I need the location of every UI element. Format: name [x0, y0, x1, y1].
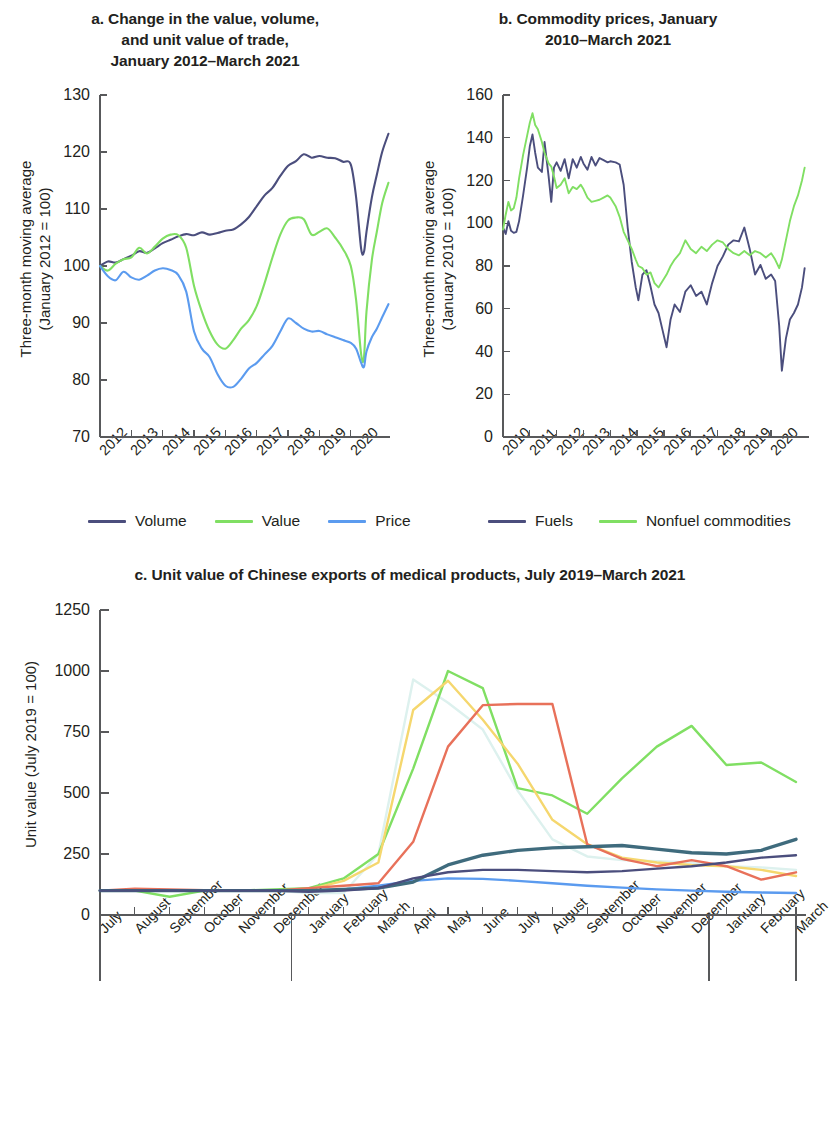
panel-a-plot-area [0, 0, 403, 480]
legend-item[interactable]: Nonfuel commodities [599, 512, 791, 530]
panel-c: c. Unit value of Chinese exports of medi… [0, 550, 806, 1142]
legend-label: Nonfuel commodities [646, 512, 791, 530]
legend-item[interactable]: Value [215, 512, 301, 530]
series-line-nonfuel-commodities [503, 113, 805, 287]
panel-b: b. Commodity prices, January 2010–March … [403, 0, 806, 550]
series-line-volume [100, 134, 388, 266]
legend-label: Value [262, 512, 301, 530]
panel-a-legend: VolumeValuePrice [88, 512, 411, 530]
legend-item[interactable]: Fuels [488, 512, 573, 530]
legend-item[interactable]: Volume [88, 512, 187, 530]
legend-item[interactable]: Price [328, 512, 410, 530]
legend-color-swatch [88, 520, 126, 523]
panel-c-plot-area [0, 550, 806, 1050]
legend-color-swatch [215, 520, 253, 523]
legend-color-swatch [328, 520, 366, 523]
legend-label: Fuels [535, 512, 573, 530]
legend-label: Volume [135, 512, 187, 530]
panel-a: a. Change in the value, volume, and unit… [0, 0, 403, 550]
panel-b-plot-area [403, 0, 806, 480]
series-line-value [100, 183, 388, 362]
legend-color-swatch [488, 520, 526, 523]
panel-b-legend: FuelsNonfuel commodities [488, 512, 791, 530]
legend-color-swatch [599, 520, 637, 523]
